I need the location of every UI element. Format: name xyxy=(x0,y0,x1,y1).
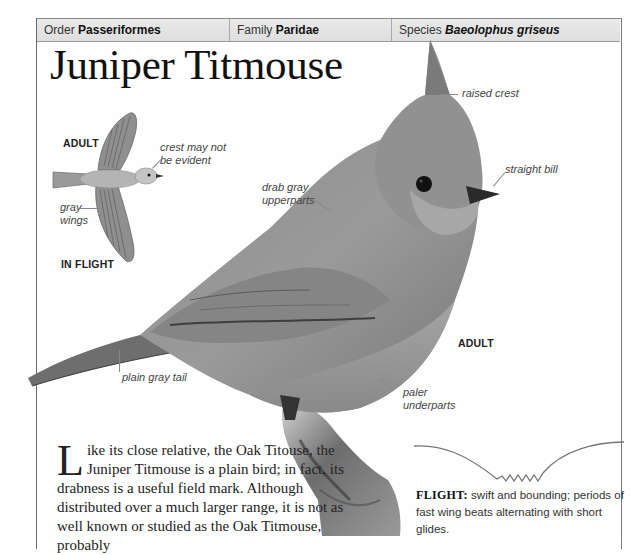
leader-line xyxy=(440,94,458,95)
drop-cap: L xyxy=(57,443,84,479)
annotation-plain-gray-tail: plain gray tail xyxy=(122,371,187,384)
flight-label: FLIGHT: xyxy=(416,488,468,502)
flight-pattern-diagram xyxy=(412,430,627,490)
annotation-straight-bill: straight bill xyxy=(505,163,558,176)
flight-caption: FLIGHT: swift and bounding; periods of f… xyxy=(416,487,626,538)
annotation-raised-crest: raised crest xyxy=(462,87,519,100)
annotation-paler-underparts: paler underparts xyxy=(403,386,456,412)
annotation-drab-gray-upperparts: drab gray upperparts xyxy=(262,181,315,207)
main-adult-label: ADULT xyxy=(458,337,494,349)
description-text: ike its close relative, the Oak Titouse,… xyxy=(57,442,344,553)
species-description: Like its close relative, the Oak Titouse… xyxy=(57,441,357,555)
leader-line xyxy=(119,350,120,372)
